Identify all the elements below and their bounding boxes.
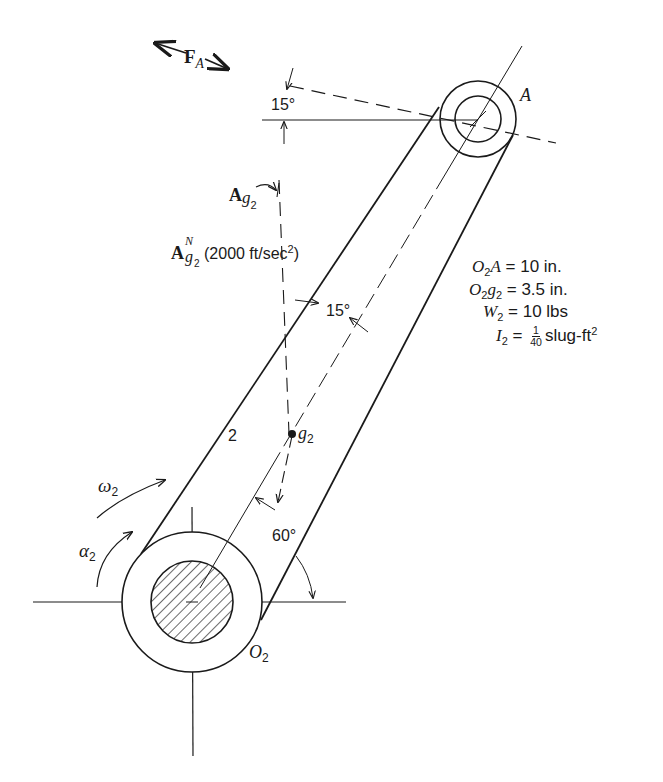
omega-label: ω2 — [98, 476, 118, 495]
pivot-label: O2 — [249, 643, 269, 661]
link-angle-label: 60° — [272, 528, 296, 544]
link-diagram: FA 15° A Ag2 A N g 2 (2000 ft/sec2) 15° … — [0, 0, 663, 782]
accel-total-label: Ag2 — [229, 186, 257, 204]
force-label: FA — [184, 47, 204, 66]
accel-normal-label: A N g 2 (2000 ft/sec2) — [171, 244, 299, 262]
inertia-fraction: 140 — [530, 325, 542, 348]
link-number-label: 2 — [228, 428, 237, 444]
force-angle-label: 15° — [271, 97, 295, 113]
accel-total-leader — [256, 185, 276, 190]
given-weight: W2 = 10 lbs — [483, 303, 568, 320]
given-inertia: I2 = 140slug-ft2 — [496, 326, 597, 349]
accel-total-tick — [277, 183, 279, 197]
cg-point — [288, 430, 296, 438]
force-arrow-left — [155, 43, 186, 53]
accel-angle-label: 15° — [326, 303, 350, 319]
point-a-label: A — [520, 86, 531, 104]
alpha-label: α2 — [79, 541, 96, 560]
force-arrow-right — [205, 59, 228, 69]
link-right-edge — [261, 135, 513, 620]
diagram-drawing — [0, 0, 663, 782]
link-angle-arc — [296, 556, 313, 598]
cg-label: g2 — [298, 424, 314, 442]
given-o2g2: O2g2 = 3.5 in. — [469, 281, 568, 298]
accel-total-line — [279, 180, 289, 434]
accel-normal-arrow — [278, 436, 292, 502]
given-o2a: O2A = 10 in. — [472, 258, 562, 275]
link-left-edge — [141, 107, 439, 554]
